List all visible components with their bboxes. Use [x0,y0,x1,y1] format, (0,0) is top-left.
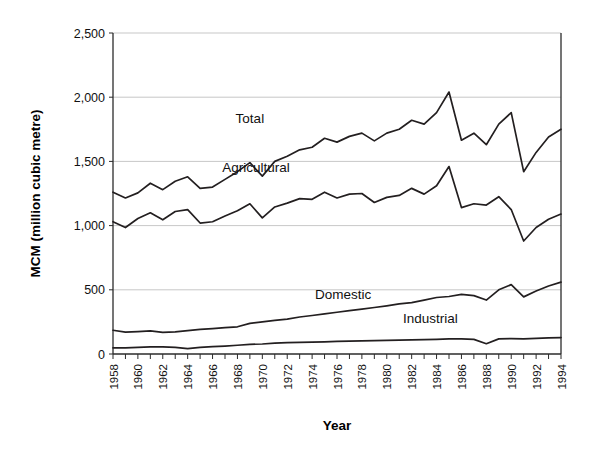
y-tick-label: 2,500 [74,27,105,41]
x-tick-label: 1968 [232,364,244,390]
x-tick-label: 1978 [356,364,368,390]
x-tick-label: 1970 [257,364,269,390]
x-tick-label: 1958 [108,364,120,390]
y-axis-title: MCM (million cubic metre) [28,109,43,277]
x-tick-label: 1964 [182,363,194,389]
x-tick-label: 1994 [556,363,568,389]
series-label-industrial: Industrial [403,311,458,326]
y-tick-label: 500 [84,283,105,297]
y-tick-label: 1,000 [74,219,105,233]
x-tick-label: 1986 [456,364,468,390]
y-tick-label: 2,000 [74,91,105,105]
y-tick-label: 0 [98,348,105,362]
series-label-domestic: Domestic [315,287,372,302]
series-label-total: Total [236,111,265,126]
y-tick-label: 1,500 [74,155,105,169]
x-tick-label: 1976 [332,364,344,390]
x-tick-label: 1984 [431,363,443,389]
x-tick-label: 1966 [207,364,219,390]
x-tick-label: 1992 [531,364,543,390]
x-tick-label: 1990 [506,364,518,390]
x-tick-label: 1962 [157,364,169,390]
x-tick-label: 1974 [307,363,319,389]
water-use-line-chart: 05001,0001,5002,0002,500 195819601962196… [0,0,597,453]
x-tick-label: 1982 [406,364,418,390]
x-axis-title: Year [323,418,352,433]
x-tick-label: 1988 [481,364,493,390]
chart-figure: 05001,0001,5002,0002,500 195819601962196… [0,0,597,453]
x-tick-label: 1960 [132,364,144,390]
x-tick-label: 1972 [282,364,294,390]
series-label-agricultural: Agricultural [222,160,290,175]
x-tick-label: 1980 [381,364,393,390]
